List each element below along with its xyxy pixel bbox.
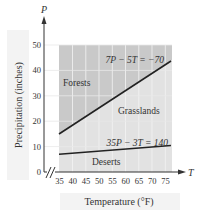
svg-text:60: 60 — [122, 176, 131, 186]
svg-text:50: 50 — [33, 40, 42, 50]
forests-label: Forests — [63, 78, 91, 88]
y-axis-title: Precipitation (inches) — [13, 62, 25, 148]
svg-text:50: 50 — [95, 176, 104, 186]
svg-text:70: 70 — [148, 176, 157, 186]
y-axis-variable: P — [40, 4, 47, 15]
svg-text:20: 20 — [33, 116, 42, 126]
svg-text:40: 40 — [33, 65, 42, 75]
svg-text:0: 0 — [37, 167, 41, 177]
x-axis-variable: T — [188, 167, 195, 178]
upper-line-equation: 7P − 5T = −70 — [106, 55, 165, 65]
svg-text:55: 55 — [108, 176, 117, 186]
deserts-label: Deserts — [92, 157, 121, 167]
grasslands-label: Grasslands — [118, 106, 160, 116]
svg-text:40: 40 — [69, 176, 78, 186]
svg-text:35: 35 — [55, 176, 64, 186]
svg-text:75: 75 — [161, 176, 170, 186]
svg-text:30: 30 — [33, 91, 42, 101]
x-axis-title: Temperature (°F) — [84, 196, 153, 208]
x-tick-labels: 35 40 45 50 55 60 65 70 75 — [55, 176, 170, 186]
y-tick-labels: 50 40 30 20 10 0 — [33, 40, 42, 177]
lower-line-equation: 35P − 3T = 140 — [105, 138, 168, 148]
x-axis-arrow-icon — [178, 170, 186, 175]
svg-text:10: 10 — [33, 142, 42, 152]
axis-break-icon — [46, 166, 55, 178]
y-axis-arrow-icon — [42, 16, 47, 24]
chart: P T 50 40 30 20 10 0 35 40 45 50 55 60 6… — [0, 0, 202, 214]
svg-text:45: 45 — [82, 176, 91, 186]
svg-text:65: 65 — [135, 176, 144, 186]
